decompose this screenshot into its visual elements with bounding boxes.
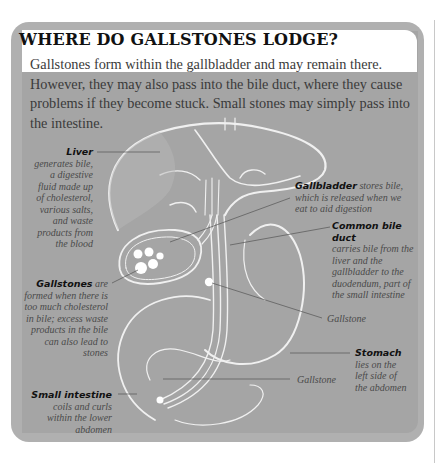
gallstones-cluster <box>134 248 164 275</box>
label-liver: Liver generates bile, a digestive fluid … <box>30 146 93 250</box>
leader-gallstone-duct <box>212 283 322 318</box>
label-gallstone-duct: Gallstone <box>327 313 366 325</box>
leader-gallstones <box>112 270 138 283</box>
label-gallbladder: Gallbladder stores bile, which is releas… <box>295 180 415 215</box>
label-gallstone-intestine: Gallstone <box>297 374 336 386</box>
leader-common-bile-duct <box>230 227 330 245</box>
intestine-gallstone <box>157 397 164 404</box>
label-stomach: Stomach lies on the left side of the abd… <box>355 347 407 393</box>
small-intestine-outline <box>118 296 210 420</box>
label-gallstones: Gallstones are formed when there is too … <box>22 278 108 359</box>
duct-gallstone <box>205 278 213 286</box>
label-small-intestine: Small intestine coils and curls within t… <box>30 389 112 435</box>
label-common-bile-duct: Common bile ductcarries bile from the li… <box>332 220 422 301</box>
